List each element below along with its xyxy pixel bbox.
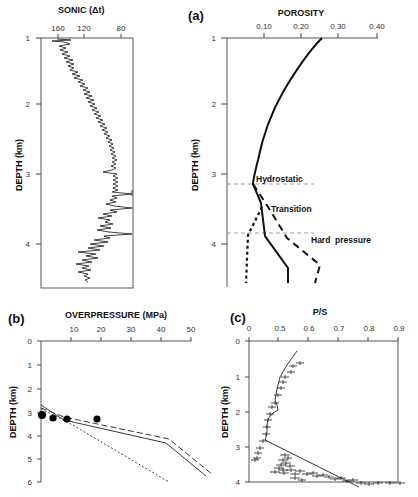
porosity-ylabel: DEPTH (km) (190, 139, 200, 191)
panel-c-label: (c) (230, 310, 246, 325)
overpressure-dotted (41, 409, 169, 482)
svg-text:0: 0 (28, 337, 33, 346)
svg-text:2: 2 (26, 100, 31, 109)
svg-text:6: 6 (28, 478, 33, 487)
porosity-panel: POROSITY 0.10 0.20 0.30 0.40 1 2 3 4 DEP… (190, 8, 385, 287)
sonic-x-ticks: 160 120 80 (51, 24, 126, 38)
porosity-x-ticks: 0.10 0.20 0.30 0.40 (256, 22, 385, 38)
svg-text:1: 1 (26, 34, 31, 43)
svg-text:30: 30 (127, 325, 136, 334)
porosity-dotted-line (246, 207, 262, 283)
annotation-hydrostatic: Hydrostatic (256, 174, 303, 184)
overpressure-points (38, 411, 101, 423)
svg-text:50: 50 (187, 325, 196, 334)
figure-canvas: SONIC (Δt) 160 120 80 1 2 3 4 DEPTH (km)… (0, 0, 418, 497)
svg-text:1: 1 (28, 361, 33, 370)
overpressure-title: OVERPRESSURE (MPa) (65, 310, 167, 320)
overpressure-panel: OVERPRESSURE (MPa) 10 20 30 40 50 0 1 2 (8, 310, 213, 487)
panel-b-label: (b) (8, 311, 25, 326)
svg-text:0.20: 0.20 (293, 22, 309, 31)
svg-text:2: 2 (212, 100, 217, 109)
svg-text:4: 4 (28, 432, 33, 441)
svg-text:0.7: 0.7 (333, 324, 345, 333)
sonic-panel: SONIC (Δt) 160 120 80 1 2 3 4 DEPTH (km) (14, 5, 133, 288)
ps-title: P/S (313, 307, 328, 317)
svg-text:0: 0 (236, 337, 241, 346)
panel-a-label: (a) (188, 8, 204, 23)
annotation-hard-pressure: Hard pressure (311, 235, 371, 245)
svg-text:5: 5 (28, 455, 33, 464)
porosity-y-ticks: 1 2 3 4 (212, 34, 227, 249)
svg-text:4: 4 (26, 240, 31, 249)
svg-text:4: 4 (236, 478, 241, 487)
svg-text:3: 3 (26, 170, 31, 179)
ps-panel: P/S 0 0.5 0.6 0.7 0.8 0.9 0 1 2 3 4 (220, 307, 405, 487)
svg-text:3: 3 (28, 409, 33, 418)
ps-data-points (251, 361, 405, 486)
sonic-title: SONIC (Δt) (58, 5, 104, 15)
porosity-title: POROSITY (278, 8, 325, 18)
svg-text:4: 4 (212, 240, 217, 249)
overpressure-y-ticks: 0 1 2 3 4 5 6 (28, 337, 41, 487)
svg-text:0: 0 (247, 324, 252, 333)
svg-text:3: 3 (236, 443, 241, 452)
ps-ylabel: DEPTH (km) (220, 386, 230, 438)
sonic-trace (52, 39, 132, 282)
svg-text:2: 2 (28, 385, 33, 394)
overpressure-ylabel: DEPTH (km) (8, 386, 18, 438)
svg-text:80: 80 (117, 24, 126, 33)
sonic-ylabel: DEPTH (km) (14, 139, 24, 191)
svg-text:0.30: 0.30 (330, 22, 346, 31)
svg-text:0.6: 0.6 (303, 324, 315, 333)
svg-text:3: 3 (212, 170, 217, 179)
annotation-transition: Transition (271, 204, 312, 214)
svg-text:160: 160 (51, 24, 65, 33)
porosity-solid-line (253, 38, 322, 283)
svg-text:0.10: 0.10 (256, 22, 272, 31)
svg-text:0.5: 0.5 (274, 324, 286, 333)
svg-text:40: 40 (157, 325, 166, 334)
svg-text:1: 1 (212, 34, 217, 43)
ps-y-ticks: 0 1 2 3 4 (236, 337, 249, 487)
svg-text:120: 120 (77, 24, 91, 33)
ps-x-ticks: 0 0.5 0.6 0.7 0.8 0.9 (247, 324, 405, 341)
porosity-dashed-line (253, 184, 320, 283)
svg-text:0.40: 0.40 (369, 22, 385, 31)
svg-text:0.8: 0.8 (363, 324, 375, 333)
svg-text:2: 2 (236, 408, 241, 417)
svg-text:1: 1 (236, 373, 241, 382)
svg-text:10: 10 (70, 325, 79, 334)
svg-text:20: 20 (97, 325, 106, 334)
overpressure-x-ticks: 10 20 30 40 50 (70, 325, 196, 341)
svg-text:0.9: 0.9 (393, 324, 405, 333)
sonic-y-ticks: 1 2 3 4 (26, 34, 41, 249)
